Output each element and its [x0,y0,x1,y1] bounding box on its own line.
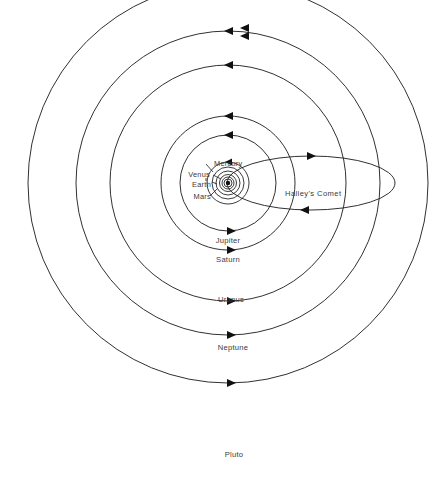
arrow-jupiter-top [224,131,233,139]
label-venus: Venus [188,170,210,179]
label-pluto: Pluto [225,450,244,459]
halleys-comet-orbit-group [227,156,395,210]
arrow-uranus-top [224,61,233,69]
arrow-saturn-top [224,112,233,120]
solar-system-canvas: Mercury Venus Earth Mars Jupiter Saturn … [0,0,446,484]
orbit-halleys-comet[interactable] [227,156,395,210]
label-mercury: Mercury [214,159,242,168]
arrow-comet-bottom [300,206,309,214]
label-jupiter: Jupiter [216,236,241,245]
arrow-pluto-bottom [227,379,236,387]
arrow-pluto-top-visible [240,32,249,40]
solar-system-diagram: Mercury Venus Earth Mars Jupiter Saturn … [0,0,446,484]
label-neptune: Neptune [218,343,248,352]
arrow-comet-top [307,152,316,160]
arrow-neptune-bottom [227,331,236,339]
sun[interactable] [226,181,230,185]
label-earth: Earth [192,180,211,189]
label-uranus: Uranus [218,295,244,304]
orbit-labels-group: Mercury Venus Earth Mars Jupiter Saturn … [188,159,342,459]
arrow-saturn-bottom [227,246,236,254]
arrow-neptune-top [224,27,233,35]
label-halleys-comet: Halley's Comet [285,189,342,198]
label-mars: Mars [194,192,211,201]
label-saturn: Saturn [216,255,240,264]
arrow-jupiter-bottom [227,227,236,235]
arrow-neptune-top-visible [240,24,249,32]
